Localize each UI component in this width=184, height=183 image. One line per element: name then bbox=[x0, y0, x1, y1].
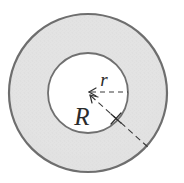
outer-radius-label: R bbox=[73, 103, 89, 130]
inner-radius-label: r bbox=[100, 69, 108, 90]
diagram-canvas: r R bbox=[0, 0, 184, 183]
annulus-radii-diagram: r R bbox=[0, 0, 184, 183]
